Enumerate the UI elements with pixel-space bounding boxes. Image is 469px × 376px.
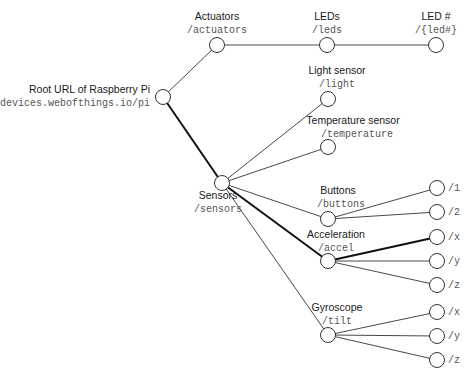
accel-url: /accel [318,243,354,254]
sensors-url: /sensors [194,204,242,215]
node-gyro [321,328,336,343]
leaf-label-gyro-y: /y [448,331,460,342]
node-az [430,278,445,293]
node-light [321,92,336,107]
edge-root-actuators [163,45,217,97]
buttons-url: /buttons [317,199,365,210]
edge-sensors-accel [222,183,328,261]
tree-edges [163,45,437,360]
node-actuators [210,38,225,53]
root-title: Root URL of Raspberry Pi [29,83,150,95]
leds-url: /leds [312,25,342,36]
leaf-label-accel-x: /x [448,232,460,243]
gyro-title: Gyroscope [312,301,363,313]
node-root [156,90,171,105]
edge-buttons-b2 [328,212,437,219]
light-title: Light sensor [308,64,366,76]
node-accel [321,254,336,269]
edge-sensors-temperature [222,147,328,183]
leaf-label-gyro-z: /z [448,355,460,366]
node-buttons [321,212,336,227]
leaf-label-button-1: /1 [448,183,460,194]
actuators-url: /actuators [187,25,247,36]
resource-tree-diagram: Root URL of Raspberry Pi devices.webofth… [0,0,469,376]
light-url: /light [319,79,355,90]
node-leds [320,38,335,53]
node-gy [430,329,445,344]
root-url: devices.webofthings.io/pi [0,98,150,109]
sensors-title: Sensors [199,189,238,201]
actuators-title: Actuators [195,10,239,22]
node-gz [430,353,445,368]
accel-title: Acceleration [307,228,365,240]
leaf-label-gyro-x: /x [448,307,460,318]
leaf-label-button-2: /2 [448,207,460,218]
node-led [429,38,444,53]
edge-gyro-gy [328,335,437,336]
edge-gyro-gz [328,335,437,360]
tree-nodes [156,38,445,368]
edge-accel-az [328,261,437,285]
node-gx [430,305,445,320]
gyro-url: /tilt [322,316,352,327]
node-b2 [430,205,445,220]
leaf-label-accel-z: /z [448,280,460,291]
node-ax [430,230,445,245]
buttons-title: Buttons [320,184,356,196]
leds-title: LEDs [314,10,340,22]
edge-sensors-light [222,99,328,183]
temperature-title: Temperature sensor [306,114,400,126]
led-url: /{led#} [415,25,457,36]
node-temperature [321,140,336,155]
node-ay [430,254,445,269]
edge-root-sensors [163,97,222,183]
temperature-url: /temperature [321,129,393,140]
led-title: LED # [421,10,450,22]
leaf-label-accel-y: /y [448,256,460,267]
node-b1 [430,181,445,196]
